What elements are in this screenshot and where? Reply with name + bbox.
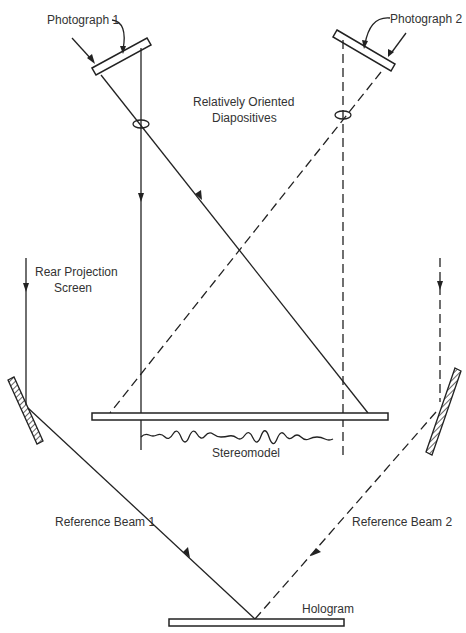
stereomodel-surface bbox=[141, 431, 333, 444]
right-incoming-arrowhead bbox=[437, 281, 443, 290]
label-reference-beam-1: Reference Beam 1 bbox=[55, 515, 155, 529]
reference-beam-1-arrowhead bbox=[183, 547, 190, 558]
photograph-1-vertical-arrowhead bbox=[138, 193, 144, 202]
hologram-plate bbox=[169, 619, 344, 626]
label-photograph-1: Photograph 1 bbox=[47, 13, 119, 27]
holographic-stereomodel-diagram: Photograph 1 Photograph 2 Relatively Ori… bbox=[0, 0, 466, 633]
photograph-2-incoming-ray bbox=[392, 33, 406, 52]
right-mirror bbox=[426, 368, 461, 455]
label-diapositives-line1: Relatively Oriented bbox=[193, 95, 294, 109]
label-rear-screen-line2: Screen bbox=[54, 281, 92, 295]
photograph-2-leader bbox=[365, 18, 390, 44]
label-reference-beam-2: Reference Beam 2 bbox=[352, 515, 452, 529]
rear-projection-screen bbox=[92, 413, 388, 420]
photograph-1-plate bbox=[92, 38, 151, 75]
label-stereomodel: Stereomodel bbox=[212, 446, 280, 460]
left-incoming-arrowhead bbox=[23, 283, 29, 292]
label-diapositives-line2: Diapositives bbox=[212, 111, 277, 125]
label-photograph-2: Photograph 2 bbox=[390, 12, 462, 26]
reference-beam-2-arrowhead bbox=[311, 548, 321, 556]
label-hologram: Hologram bbox=[302, 602, 354, 616]
photograph-2-plate bbox=[333, 30, 395, 71]
label-rear-screen-line1: Rear Projection bbox=[35, 265, 118, 279]
